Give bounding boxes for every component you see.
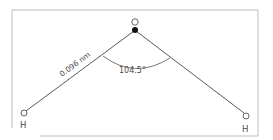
bond-right <box>136 31 244 113</box>
oxygen-atom-icon <box>132 19 138 25</box>
hydrogen-right-atom-icon <box>243 113 249 119</box>
bond-left <box>26 31 134 111</box>
hydrogen-left-atom-icon <box>21 110 27 116</box>
hydrogen-right-label: H <box>242 124 248 134</box>
bond-angle-label: 104.5° <box>119 66 146 75</box>
hydrogen-left-label: H <box>20 120 26 130</box>
water-molecule-diagram: H H 0.096 nm 104.5° <box>0 0 273 140</box>
oxygen-nucleus-dot <box>132 27 138 33</box>
